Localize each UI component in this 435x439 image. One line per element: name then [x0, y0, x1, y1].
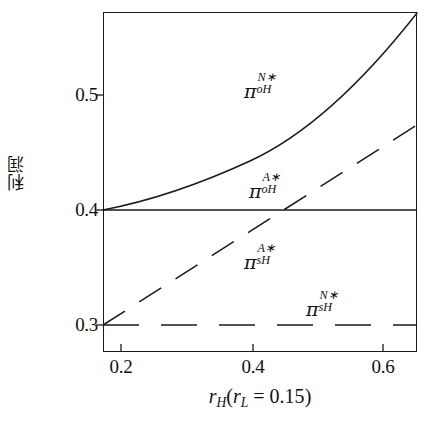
x-axis-title-var-main-sub: H [216, 395, 226, 410]
subscript: sH [257, 254, 271, 266]
y-axis-title: 利润 [8, 155, 42, 191]
series-label-pi-oH-N: πN∗oH [244, 79, 293, 101]
x-axis-title-open-paren: ( [226, 385, 233, 407]
x-axis-title-var-inner: r [233, 385, 241, 407]
pi-glyph: π [306, 298, 319, 320]
y-tick-label-0.4: 0.4 [75, 200, 98, 219]
pi-glyph: π [244, 251, 257, 273]
pi-oH-N-scripts: N∗oH [257, 79, 293, 98]
x-tick-label-0.2-wrap: 0.2 [86, 357, 156, 377]
y-tick-label-0.5: 0.5 [75, 85, 98, 104]
x-tick-label-0.2: 0.2 [110, 356, 133, 377]
x-axis-title: rH(rL = 0.15) [103, 385, 417, 411]
pi-glyph: π [249, 180, 262, 202]
x-axis-title-close-paren: ) [305, 385, 312, 407]
series-label-pi-oH-A: πA∗oH [249, 179, 298, 201]
x-tick-label-0.6: 0.6 [372, 356, 395, 377]
pi-sH-A-scripts: A∗sH [257, 250, 293, 269]
subscript: oH [262, 183, 277, 195]
pi-oH-A-scripts: A∗oH [262, 179, 298, 198]
subscript: oH [257, 83, 272, 95]
x-tick-label-0.6-wrap: 0.6 [348, 357, 418, 377]
subscript: sH [319, 301, 333, 313]
chart-figure: 0.5 0.4 0.3 0.2 0.4 0.6 利润 rH(rL = 0.15)… [0, 0, 435, 439]
pi-glyph: π [244, 80, 257, 102]
y-tick-label-0.3: 0.3 [75, 315, 98, 334]
x-axis-title-equals: = 0.15 [248, 385, 304, 407]
x-tick-label-0.4: 0.4 [242, 356, 265, 377]
series-label-pi-sH-N: πN∗sH [306, 297, 355, 319]
pi-sH-N-scripts: N∗sH [319, 297, 355, 316]
x-tick-label-0.4-wrap: 0.4 [218, 357, 288, 377]
series-label-pi-sH-A: πA∗sH [244, 250, 293, 272]
